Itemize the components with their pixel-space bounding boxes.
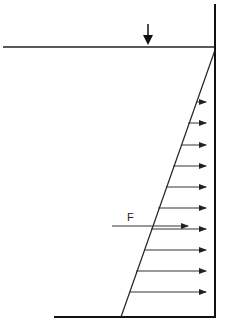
- pressure-profile-line: [121, 50, 215, 317]
- down-arrow-icon: [143, 24, 153, 45]
- pressure-arrows: [129, 102, 206, 292]
- pressure-diagram: F: [0, 0, 226, 327]
- force-label: F: [127, 211, 134, 223]
